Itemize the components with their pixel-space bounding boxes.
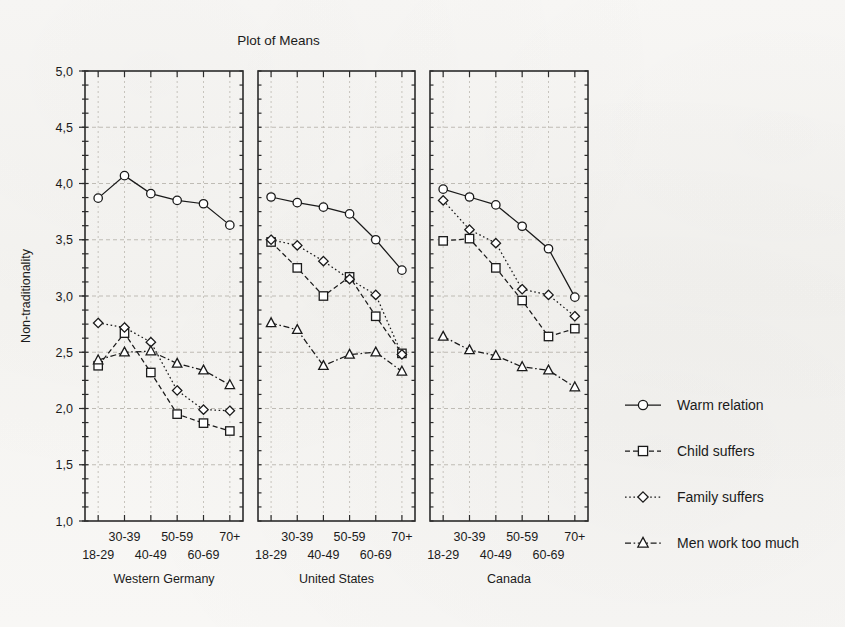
panel-label: United States [299, 572, 374, 586]
data-point-warm-relation [544, 245, 552, 253]
data-point-child-suffers [518, 296, 526, 304]
y-tick-label: 3,5 [56, 233, 73, 247]
data-point-men-work-too-much [266, 318, 275, 327]
data-point-child-suffers [319, 292, 327, 300]
data-point-warm-relation [120, 171, 128, 179]
data-point-warm-relation [492, 201, 500, 209]
series-line-men-work-too-much [98, 351, 230, 385]
data-point-family-suffers [293, 241, 302, 250]
data-point-child-suffers [173, 410, 181, 418]
data-point-child-suffers [226, 427, 234, 435]
legend-marker-triangle [638, 537, 648, 547]
x-category-label: 30-39 [109, 530, 141, 544]
legend-marker-square [638, 446, 647, 455]
data-point-warm-relation [199, 200, 207, 208]
data-point-men-work-too-much [397, 366, 406, 375]
series-line-child-suffers [271, 242, 402, 353]
legend-label: Men work too much [677, 535, 799, 551]
data-point-warm-relation [94, 194, 102, 202]
x-category-label: 60-69 [188, 548, 220, 562]
y-axis-label: Non-traditionality [19, 248, 33, 343]
data-point-child-suffers [147, 368, 155, 376]
y-tick-label: 4,0 [56, 177, 73, 191]
series-line-child-suffers [443, 239, 575, 337]
x-category-label: 40-49 [135, 548, 167, 562]
data-point-men-work-too-much [146, 346, 155, 355]
data-point-men-work-too-much [293, 325, 302, 334]
data-point-child-suffers [465, 234, 473, 242]
x-category-label: 30-39 [281, 530, 313, 544]
x-category-label: 18-29 [427, 548, 459, 562]
series-line-men-work-too-much [443, 337, 575, 388]
legend-label: Warm relation [677, 397, 764, 413]
data-point-warm-relation [267, 193, 275, 201]
data-point-child-suffers [492, 264, 500, 272]
y-tick-label: 2,0 [56, 402, 73, 416]
data-point-warm-relation [226, 221, 234, 229]
data-point-family-suffers [491, 238, 500, 247]
data-point-warm-relation [147, 189, 155, 197]
panel-label: Canada [487, 572, 531, 586]
data-point-warm-relation [518, 222, 526, 230]
x-category-label: 60-69 [533, 548, 565, 562]
series-line-warm-relation [98, 176, 230, 226]
data-point-family-suffers [517, 285, 526, 294]
legend-item-family-suffers[interactable]: Family suffers [625, 489, 764, 505]
series-line-child-suffers [98, 333, 230, 431]
x-category-label: 40-49 [307, 548, 339, 562]
legend-label: Child suffers [677, 443, 755, 459]
panel-united-states [258, 71, 415, 521]
data-point-men-work-too-much [371, 347, 380, 356]
data-point-family-suffers [225, 406, 234, 415]
panel-western-germany [85, 71, 243, 521]
legend-marker-diamond [638, 492, 648, 502]
data-point-men-work-too-much [465, 345, 474, 354]
data-point-child-suffers [372, 312, 380, 320]
data-point-warm-relation [398, 266, 406, 274]
data-point-family-suffers [199, 405, 208, 414]
legend-label: Family suffers [677, 489, 764, 505]
data-point-child-suffers [439, 237, 447, 245]
legend-item-child-suffers[interactable]: Child suffers [625, 443, 755, 459]
data-point-family-suffers [371, 290, 380, 299]
x-category-label: 70+ [391, 530, 412, 544]
panel-label: Western Germany [113, 572, 215, 586]
series-line-warm-relation [443, 189, 575, 297]
x-category-label: 50-59 [334, 530, 366, 544]
series-line-family-suffers [271, 240, 402, 355]
legend-marker-circle [638, 400, 647, 409]
x-category-label: 50-59 [506, 530, 538, 544]
legend-item-men-work-too-much[interactable]: Men work too much [625, 535, 799, 551]
data-point-men-work-too-much [438, 331, 447, 340]
chart-title: Plot of Means [237, 33, 320, 48]
x-category-label: 70+ [564, 530, 585, 544]
legend-item-warm-relation[interactable]: Warm relation [625, 397, 764, 413]
data-point-family-suffers [570, 312, 579, 321]
chart-page: Plot of MeansNon-traditionality1,01,52,0… [0, 0, 845, 627]
data-point-men-work-too-much [570, 382, 579, 391]
data-point-child-suffers [571, 324, 579, 332]
x-category-label: 50-59 [161, 530, 193, 544]
series-line-men-work-too-much [271, 323, 402, 371]
x-category-label: 30-39 [454, 530, 486, 544]
y-tick-label: 4,5 [56, 121, 73, 135]
x-category-label: 70+ [219, 530, 240, 544]
data-point-warm-relation [345, 210, 353, 218]
data-point-men-work-too-much [225, 380, 234, 389]
data-point-warm-relation [372, 236, 380, 244]
x-category-label: 18-29 [82, 548, 114, 562]
series-line-family-suffers [98, 323, 230, 411]
data-point-warm-relation [571, 293, 579, 301]
y-tick-label: 5,0 [56, 65, 73, 79]
series-line-warm-relation [271, 197, 402, 270]
y-tick-label: 1,0 [56, 515, 73, 529]
y-tick-label: 1,5 [56, 458, 73, 472]
data-point-warm-relation [173, 196, 181, 204]
data-point-family-suffers [93, 318, 102, 327]
data-point-men-work-too-much [517, 362, 526, 371]
data-point-child-suffers [544, 332, 552, 340]
plot-of-means-chart: Plot of MeansNon-traditionality1,01,52,0… [0, 0, 845, 627]
data-point-warm-relation [439, 185, 447, 193]
data-point-warm-relation [465, 193, 473, 201]
panel-canada [430, 71, 588, 521]
